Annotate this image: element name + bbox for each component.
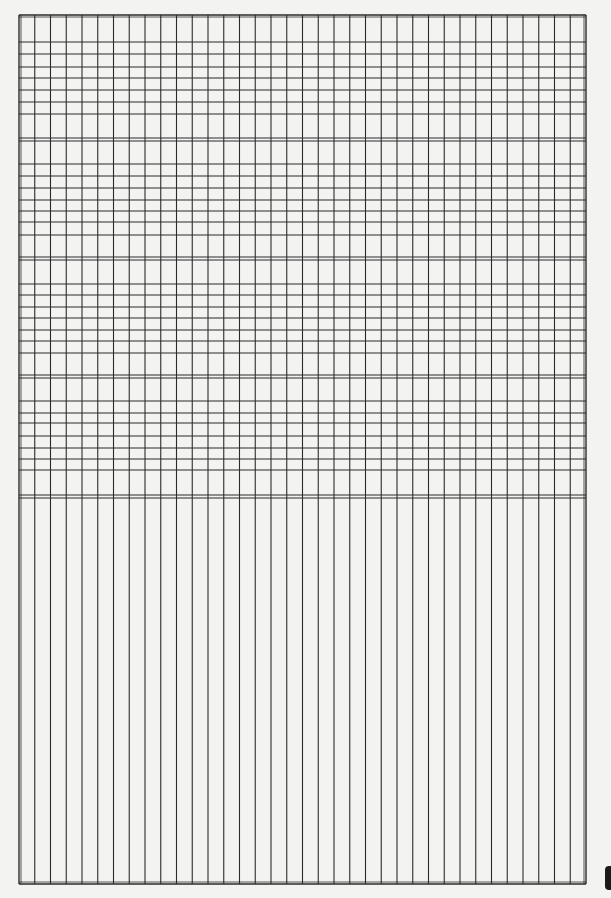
scan-edge-mark: [605, 866, 611, 890]
